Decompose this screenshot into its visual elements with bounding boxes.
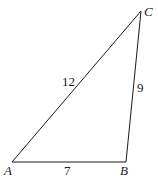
vertex-label-c: C (144, 4, 153, 19)
triangle-diagram: A B C 12 9 7 (0, 0, 158, 183)
side-label-bc: 9 (137, 80, 144, 95)
side-label-ab: 7 (64, 163, 71, 178)
vertex-label-a: A (3, 163, 12, 178)
triangle-abc (12, 11, 141, 162)
vertex-label-b: B (120, 163, 128, 178)
side-label-ac: 12 (62, 74, 75, 89)
